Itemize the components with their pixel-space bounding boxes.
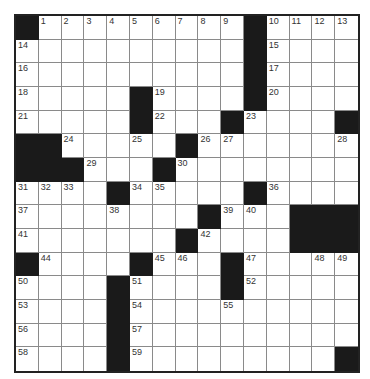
grid-cell[interactable]: 24 bbox=[62, 134, 85, 158]
grid-cell[interactable]: 33 bbox=[62, 182, 85, 206]
grid-cell[interactable] bbox=[312, 87, 335, 111]
grid-cell[interactable] bbox=[335, 158, 358, 182]
grid-cell[interactable] bbox=[62, 63, 85, 87]
grid-cell[interactable] bbox=[39, 63, 62, 87]
grid-cell[interactable] bbox=[84, 182, 107, 206]
grid-cell[interactable]: 23 bbox=[244, 111, 267, 135]
grid-cell[interactable]: 48 bbox=[312, 253, 335, 277]
grid-cell[interactable] bbox=[267, 276, 290, 300]
grid-cell[interactable]: 8 bbox=[198, 16, 221, 40]
grid-cell[interactable]: 21 bbox=[16, 111, 39, 135]
grid-cell[interactable]: 29 bbox=[84, 158, 107, 182]
grid-cell[interactable]: 31 bbox=[16, 182, 39, 206]
grid-cell[interactable] bbox=[84, 347, 107, 371]
grid-cell[interactable] bbox=[84, 87, 107, 111]
grid-cell[interactable]: 52 bbox=[244, 276, 267, 300]
grid-cell[interactable] bbox=[290, 300, 313, 324]
grid-cell[interactable] bbox=[107, 229, 130, 253]
grid-cell[interactable] bbox=[335, 324, 358, 348]
grid-cell[interactable] bbox=[290, 111, 313, 135]
grid-cell[interactable]: 4 bbox=[107, 16, 130, 40]
grid-cell[interactable]: 3 bbox=[84, 16, 107, 40]
grid-cell[interactable] bbox=[153, 134, 176, 158]
grid-cell[interactable] bbox=[198, 300, 221, 324]
grid-cell[interactable] bbox=[198, 87, 221, 111]
grid-cell[interactable] bbox=[107, 111, 130, 135]
grid-cell[interactable] bbox=[84, 134, 107, 158]
grid-cell[interactable] bbox=[107, 40, 130, 64]
grid-cell[interactable]: 54 bbox=[130, 300, 153, 324]
grid-cell[interactable] bbox=[290, 158, 313, 182]
grid-cell[interactable] bbox=[84, 253, 107, 277]
grid-cell[interactable] bbox=[312, 63, 335, 87]
grid-cell[interactable] bbox=[84, 111, 107, 135]
grid-cell[interactable]: 19 bbox=[153, 87, 176, 111]
grid-cell[interactable] bbox=[221, 324, 244, 348]
grid-cell[interactable] bbox=[312, 276, 335, 300]
grid-cell[interactable] bbox=[267, 324, 290, 348]
grid-cell[interactable]: 7 bbox=[176, 16, 199, 40]
grid-cell[interactable] bbox=[84, 300, 107, 324]
grid-cell[interactable]: 28 bbox=[335, 134, 358, 158]
grid-cell[interactable] bbox=[312, 324, 335, 348]
grid-cell[interactable] bbox=[198, 276, 221, 300]
grid-cell[interactable] bbox=[290, 40, 313, 64]
grid-cell[interactable]: 11 bbox=[290, 16, 313, 40]
grid-cell[interactable] bbox=[244, 158, 267, 182]
grid-cell[interactable] bbox=[290, 87, 313, 111]
grid-cell[interactable] bbox=[267, 253, 290, 277]
grid-cell[interactable]: 1 bbox=[39, 16, 62, 40]
grid-cell[interactable] bbox=[176, 87, 199, 111]
grid-cell[interactable] bbox=[335, 182, 358, 206]
grid-cell[interactable] bbox=[221, 40, 244, 64]
grid-cell[interactable]: 18 bbox=[16, 87, 39, 111]
grid-cell[interactable]: 26 bbox=[198, 134, 221, 158]
grid-cell[interactable] bbox=[84, 229, 107, 253]
grid-cell[interactable] bbox=[107, 87, 130, 111]
grid-cell[interactable] bbox=[153, 300, 176, 324]
grid-cell[interactable] bbox=[267, 347, 290, 371]
grid-cell[interactable] bbox=[335, 300, 358, 324]
grid-cell[interactable] bbox=[153, 229, 176, 253]
grid-cell[interactable] bbox=[130, 40, 153, 64]
grid-cell[interactable] bbox=[312, 347, 335, 371]
grid-cell[interactable] bbox=[176, 182, 199, 206]
grid-cell[interactable] bbox=[267, 134, 290, 158]
grid-cell[interactable] bbox=[84, 63, 107, 87]
grid-cell[interactable] bbox=[198, 182, 221, 206]
grid-cell[interactable] bbox=[107, 63, 130, 87]
grid-cell[interactable]: 14 bbox=[16, 40, 39, 64]
grid-cell[interactable] bbox=[198, 253, 221, 277]
grid-cell[interactable] bbox=[84, 324, 107, 348]
grid-cell[interactable] bbox=[198, 158, 221, 182]
grid-cell[interactable] bbox=[62, 276, 85, 300]
grid-cell[interactable] bbox=[267, 111, 290, 135]
grid-cell[interactable] bbox=[39, 205, 62, 229]
grid-cell[interactable]: 2 bbox=[62, 16, 85, 40]
grid-cell[interactable]: 22 bbox=[153, 111, 176, 135]
grid-cell[interactable] bbox=[221, 158, 244, 182]
grid-cell[interactable] bbox=[267, 229, 290, 253]
grid-cell[interactable]: 13 bbox=[335, 16, 358, 40]
grid-cell[interactable] bbox=[221, 229, 244, 253]
grid-cell[interactable] bbox=[198, 347, 221, 371]
grid-cell[interactable]: 20 bbox=[267, 87, 290, 111]
grid-cell[interactable] bbox=[221, 182, 244, 206]
grid-cell[interactable] bbox=[312, 300, 335, 324]
grid-cell[interactable]: 35 bbox=[153, 182, 176, 206]
grid-cell[interactable] bbox=[62, 324, 85, 348]
grid-cell[interactable] bbox=[290, 134, 313, 158]
grid-cell[interactable] bbox=[290, 276, 313, 300]
grid-cell[interactable]: 9 bbox=[221, 16, 244, 40]
grid-cell[interactable] bbox=[39, 87, 62, 111]
grid-cell[interactable] bbox=[335, 40, 358, 64]
grid-cell[interactable] bbox=[198, 40, 221, 64]
grid-cell[interactable] bbox=[312, 158, 335, 182]
grid-cell[interactable] bbox=[176, 63, 199, 87]
grid-cell[interactable] bbox=[62, 40, 85, 64]
grid-cell[interactable] bbox=[221, 347, 244, 371]
grid-cell[interactable] bbox=[39, 300, 62, 324]
grid-cell[interactable] bbox=[39, 324, 62, 348]
grid-cell[interactable] bbox=[62, 229, 85, 253]
grid-cell[interactable] bbox=[107, 158, 130, 182]
